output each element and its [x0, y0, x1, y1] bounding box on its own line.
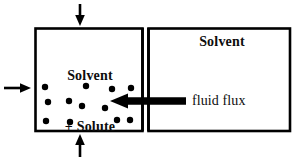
top-pressure-arrow [75, 4, 85, 26]
left-chamber-label-line2: + Solute [44, 118, 136, 135]
osmosis-diagram: Solvent + Solute Solvent fluid flux [0, 0, 298, 162]
right-chamber-label: Solvent [176, 33, 268, 50]
fluid-flux-label: fluid flux [192, 92, 246, 109]
left-pressure-arrow [4, 83, 31, 93]
left-chamber-label: Solvent + Solute [44, 33, 136, 162]
semipermeable-membrane [143, 28, 149, 131]
left-chamber-label-line1: Solvent [44, 67, 136, 84]
